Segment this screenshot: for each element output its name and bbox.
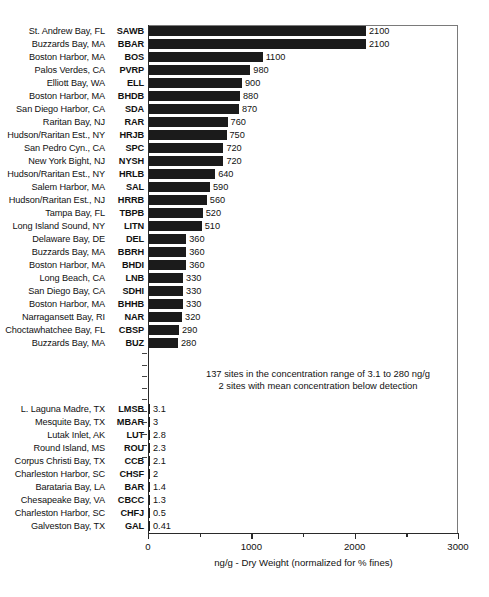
bar-value-label: 2100 xyxy=(369,25,389,38)
bar-row: Elliott Bay, WAELL900 xyxy=(0,77,489,90)
bar xyxy=(149,117,228,127)
site-code-label: CHSF xyxy=(110,468,144,481)
x-axis-minor-tick xyxy=(303,533,304,537)
bar-row: Long Beach, CALNB330 xyxy=(0,272,489,285)
bar-row: Hudson/Raritan Est., NYHRJB750 xyxy=(0,129,489,142)
bar-row: L. Laguna Madre, TXLMSB3.1 xyxy=(0,403,489,416)
bar-value-label: 320 xyxy=(185,311,200,324)
site-code-label: GAL xyxy=(110,520,144,533)
bar-row: Charleston Harbor, SCCHFJ0.5 xyxy=(0,507,489,520)
bar xyxy=(149,208,203,218)
bar xyxy=(149,234,186,244)
bar-row: Narragansett Bay, RINAR320 xyxy=(0,311,489,324)
bar-value-label: 2.3 xyxy=(153,442,166,455)
site-name-label: New York Bight, NJ xyxy=(0,155,105,168)
site-code-label: CBCC xyxy=(110,494,144,507)
bar-value-label: 590 xyxy=(213,181,228,194)
bar-row: Salem Harbor, MASAL590 xyxy=(0,181,489,194)
site-code-label: BHDB xyxy=(110,90,144,103)
site-code-label: HRRB xyxy=(110,194,144,207)
site-name-label: Barataria Bay, LA xyxy=(0,481,105,494)
x-axis-major-tick xyxy=(458,533,459,539)
bar-value-label: 520 xyxy=(206,207,221,220)
bar-value-label: 870 xyxy=(242,103,257,116)
site-code-label: TBPB xyxy=(110,207,144,220)
site-code-label: CCB xyxy=(110,455,144,468)
x-axis-tick-label: 1000 xyxy=(241,541,262,552)
bar-row: Lutak Inlet, AKLUT2.8 xyxy=(0,429,489,442)
site-name-label: Buzzards Bay, MA xyxy=(0,337,105,350)
bar xyxy=(149,65,250,75)
site-code-label: SAWB xyxy=(110,25,144,38)
bar-row: Long Island Sound, NYLITN510 xyxy=(0,220,489,233)
site-name-label: Boston Harbor, MA xyxy=(0,51,105,64)
bar-value-label: 2.1 xyxy=(153,455,166,468)
site-code-label: ROU xyxy=(110,442,144,455)
site-name-label: Delaware Bay, DE xyxy=(0,233,105,246)
site-code-label: DEL xyxy=(110,233,144,246)
bar xyxy=(149,247,186,257)
x-axis-minor-tick xyxy=(406,533,407,537)
site-code-label: SDHI xyxy=(110,285,144,298)
bar-row: Boston Harbor, MABHDI360 xyxy=(0,259,489,272)
annotation-line-1: 137 sites in the concentration range of … xyxy=(178,368,458,380)
site-name-label: Lutak Inlet, AK xyxy=(0,429,105,442)
bar-row: Corpus Christi Bay, TXCCB2.1 xyxy=(0,455,489,468)
site-name-label: San Diego Bay, CA xyxy=(0,285,105,298)
site-code-label: RAR xyxy=(110,116,144,129)
site-name-label: Palos Verdes, CA xyxy=(0,64,105,77)
site-code-label: NAR xyxy=(110,311,144,324)
bar-value-label: 720 xyxy=(226,155,241,168)
bar-row: St. Andrew Bay, FLSAWB2100 xyxy=(0,25,489,38)
bar-row: Barataria Bay, LABAR1.4 xyxy=(0,481,489,494)
bar-value-label: 290 xyxy=(182,324,197,337)
site-name-label: Choctawhatchee Bay, FL xyxy=(0,324,105,337)
site-name-label: Boston Harbor, MA xyxy=(0,298,105,311)
bar-value-label: 2100 xyxy=(369,38,389,51)
site-name-label: Round Island, MS xyxy=(0,442,105,455)
bar-value-label: 900 xyxy=(245,77,260,90)
site-name-label: Buzzards Bay, MA xyxy=(0,38,105,51)
bar-row: Palos Verdes, CAPVRP980 xyxy=(0,64,489,77)
site-code-label: PVRP xyxy=(110,64,144,77)
site-name-label: Buzzards Bay, MA xyxy=(0,246,105,259)
bar xyxy=(149,78,242,88)
annotation-line-2: 2 sites with mean concentration below de… xyxy=(178,380,458,392)
bar xyxy=(149,325,179,335)
site-name-label: Tampa Bay, FL xyxy=(0,207,105,220)
x-axis-major-tick xyxy=(355,533,356,539)
bar-row: Buzzards Bay, MABBRH360 xyxy=(0,246,489,259)
bar-row: Galveston Bay, TXGAL0.41 xyxy=(0,520,489,533)
axis-break-dash xyxy=(142,365,147,366)
bar-row: Buzzards Bay, MABUZ280 xyxy=(0,337,489,350)
bar-value-label: 3.1 xyxy=(153,403,166,416)
bar-value-label: 280 xyxy=(181,337,196,350)
site-code-label: SDA xyxy=(110,103,144,116)
site-code-label: ELL xyxy=(110,77,144,90)
x-axis-tick-label: 3000 xyxy=(447,541,468,552)
site-name-label: San Diego Harbor, CA xyxy=(0,103,105,116)
site-name-label: Hudson/Raritan Est., NJ xyxy=(0,194,105,207)
bar xyxy=(149,273,183,283)
bar xyxy=(149,130,227,140)
site-code-label: BAR xyxy=(110,481,144,494)
site-name-label: Galveston Bay, TX xyxy=(0,520,105,533)
site-name-label: Salem Harbor, MA xyxy=(0,181,105,194)
site-code-label: BBAR xyxy=(110,38,144,51)
site-code-label: LNB xyxy=(110,272,144,285)
bar xyxy=(149,286,183,296)
site-code-label: MBAR xyxy=(110,416,144,429)
bar-value-label: 980 xyxy=(253,64,268,77)
bar xyxy=(149,221,202,231)
bar-row: Round Island, MSROU2.3 xyxy=(0,442,489,455)
bar-value-label: 330 xyxy=(186,285,201,298)
site-code-label: LMSB xyxy=(110,403,144,416)
axis-break-dash xyxy=(142,399,147,400)
bar xyxy=(149,52,263,62)
site-name-label: Long Island Sound, NY xyxy=(0,220,105,233)
bar-value-label: 360 xyxy=(189,259,204,272)
x-axis-major-tick xyxy=(148,533,149,539)
x-axis-minor-tick xyxy=(200,533,201,537)
bar xyxy=(149,338,178,348)
bar-row: San Pedro Cyn., CASPC720 xyxy=(0,142,489,155)
